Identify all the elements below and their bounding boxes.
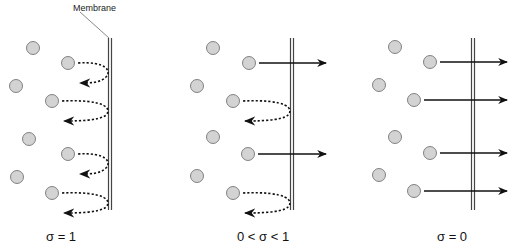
reflected-arrow [243,193,290,213]
solute-particle [46,95,59,108]
solute-particle [62,57,75,70]
membrane-label: Membrane [73,3,116,13]
solute-particle [207,42,220,55]
caption-sigma-partial: 0 < σ < 1 [237,229,289,244]
diagram-canvas [0,0,518,248]
solute-particle [389,41,402,54]
solute-particle [424,56,437,69]
solute-particle [23,133,36,146]
solute-particle [227,187,240,200]
reflected-arrow [62,193,108,213]
solute-particle [424,147,437,160]
solute-particle [191,170,204,183]
membrane-label-leader [80,12,109,38]
solute-particle [207,131,220,144]
reflected-arrow [62,101,108,121]
caption-sigma-0: σ = 0 [437,229,467,244]
solute-particle [389,131,402,144]
solute-particle [373,169,386,182]
solute-particle [408,94,421,107]
caption-sigma-1: σ = 1 [46,229,76,244]
solute-particle [408,185,421,198]
solute-particle [46,187,59,200]
solute-particle [227,95,240,108]
solute-particle [373,79,386,92]
solute-particle [242,148,255,161]
solute-particle [27,42,40,55]
solute-particle [243,57,256,70]
reflected-arrow [78,154,108,174]
solute-particle [10,80,23,93]
reflected-arrow [243,101,290,121]
solute-particle [191,80,204,93]
reflected-arrow [78,63,108,83]
solute-particle [11,171,24,184]
solute-particle [62,148,75,161]
